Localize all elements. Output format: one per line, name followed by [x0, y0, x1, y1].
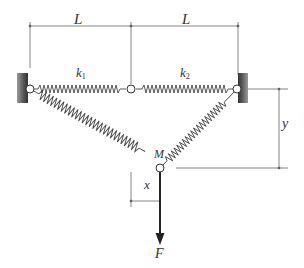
top-dimension [29, 22, 239, 84]
mass-label: M [154, 148, 164, 160]
y-dimension [176, 88, 288, 169]
right-pivot [233, 85, 241, 93]
spring-label-k1: k1 [76, 66, 86, 81]
mass-node [156, 164, 164, 172]
spring-k1 [34, 85, 126, 93]
spring-label-k1-sub: 1 [82, 72, 86, 81]
span-label-left: L [74, 12, 82, 27]
y-offset-label: y [282, 117, 288, 131]
spring-k2 [136, 85, 233, 93]
span-label-right: L [182, 12, 190, 27]
force-arrow [156, 172, 165, 245]
spring-label-k2-sub: 2 [186, 72, 190, 81]
diagram-canvas [0, 0, 304, 268]
x-offset-label: x [144, 178, 150, 191]
middle-node [127, 85, 135, 93]
force-label: F [155, 247, 164, 261]
left-pivot [26, 85, 34, 93]
spring-mass-diagram: L L k1 k2 M x y F [0, 0, 304, 268]
spring-label-k2: k2 [180, 66, 190, 81]
spring-right-diagonal [160, 89, 238, 168]
spring-left-diagonal [31, 87, 147, 156]
